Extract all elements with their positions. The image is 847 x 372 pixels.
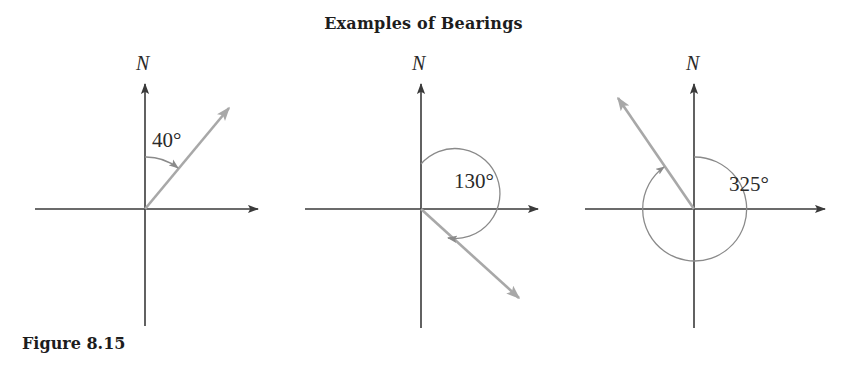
bearings-figure: Examples of Bearings	[0, 0, 847, 372]
angle-label-325: 325°	[729, 172, 769, 197]
north-label-diagram-1: N	[136, 52, 149, 75]
bearing-ray	[618, 98, 694, 209]
north-label-diagram-3: N	[686, 52, 699, 75]
figure-caption: Figure 8.15	[22, 334, 125, 353]
diagram-bearing-325	[585, 84, 825, 328]
diagram-bearing-40	[35, 84, 258, 326]
angle-label-40: 40°	[152, 128, 181, 153]
bearing-ray	[421, 209, 519, 298]
angle-label-130: 130°	[454, 169, 494, 194]
diagram-bearing-130	[305, 84, 538, 328]
angle-arc	[145, 157, 178, 168]
north-label-diagram-2: N	[412, 52, 425, 75]
